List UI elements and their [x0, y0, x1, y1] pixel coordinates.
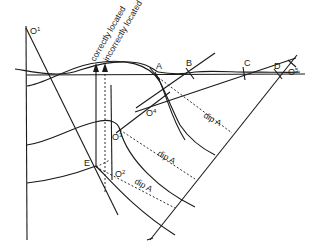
label-o2: O2	[115, 169, 126, 179]
o1-vertical-line	[26, 26, 27, 240]
label-d: D	[274, 61, 281, 71]
label-o3: O3	[112, 132, 123, 142]
cross-section-diagram: O1 O2 O3 O4 O5 A B C D E correctly locat…	[0, 0, 312, 251]
label-o4: O4	[146, 108, 157, 118]
bed-boundary-1	[27, 61, 185, 140]
correct-arrow-head	[93, 63, 99, 72]
o3-o4-line	[116, 92, 170, 133]
o4-b-line	[136, 53, 215, 108]
bed-boundary-3	[27, 166, 175, 235]
dip-label-1: dip A	[202, 110, 224, 128]
e-dip-stub	[96, 160, 110, 167]
label-b: B	[186, 58, 192, 68]
topographic-profile-east	[158, 71, 300, 74]
label-o1: O1	[30, 26, 41, 36]
label-a: A	[156, 61, 162, 71]
tick-c	[243, 67, 245, 80]
datum-line	[26, 74, 305, 75]
topographic-profile	[15, 62, 158, 74]
label-c: C	[244, 58, 251, 68]
label-o5: O5	[288, 67, 299, 77]
dip-label-2: dip A	[156, 148, 178, 166]
label-e: E	[84, 158, 90, 168]
